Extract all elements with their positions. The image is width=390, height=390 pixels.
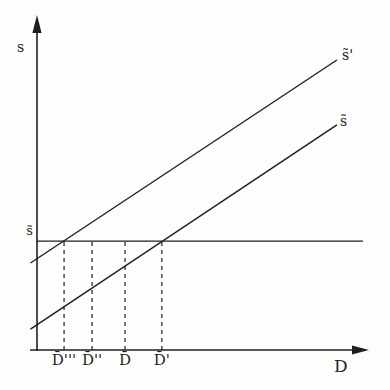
diagram-canvas: [0, 0, 390, 390]
lower-sloped-line: [30, 125, 336, 329]
upper-sloped-line: [30, 60, 336, 263]
s-level-label: s̃: [6, 224, 33, 237]
upper-line-label: s̃': [342, 48, 353, 62]
lower-line-label: s̃: [340, 114, 347, 128]
y-axis-arrowhead-icon: [32, 15, 41, 33]
dashed-guide-lines: [64, 241, 162, 350]
x-axis-arrowhead-icon: [352, 345, 369, 354]
y-axis-label: s: [17, 40, 24, 54]
diagram-figure: s D s̃ s̃' s̃ D̄''' D̄'' D̄ D̄': [0, 0, 390, 390]
x-mark-label-d-prime: D̄': [140, 353, 184, 368]
x-axis-label: D: [334, 358, 348, 375]
